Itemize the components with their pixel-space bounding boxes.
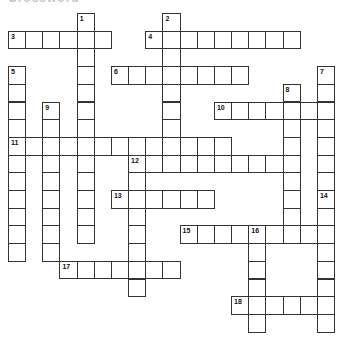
crossword-cell[interactable]	[231, 66, 249, 85]
crossword-cell[interactable]	[197, 190, 215, 209]
crossword-cell[interactable]	[180, 66, 198, 85]
crossword-cell[interactable]: 4	[145, 31, 163, 50]
crossword-cell[interactable]	[145, 66, 163, 85]
crossword-cell[interactable]: 2	[162, 13, 180, 32]
crossword-cell[interactable]	[8, 119, 26, 138]
crossword-cell[interactable]	[8, 190, 26, 209]
crossword-cell[interactable]	[162, 102, 180, 121]
crossword-cell[interactable]	[317, 279, 335, 298]
crossword-cell[interactable]	[317, 155, 335, 174]
crossword-cell[interactable]	[59, 31, 77, 50]
crossword-cell[interactable]	[248, 102, 266, 121]
crossword-cell[interactable]: 7	[317, 66, 335, 85]
crossword-cell[interactable]	[25, 31, 43, 50]
crossword-cell[interactable]	[317, 243, 335, 262]
crossword-cell[interactable]	[197, 66, 215, 85]
crossword-cell[interactable]	[94, 137, 112, 156]
crossword-cell[interactable]	[317, 84, 335, 103]
crossword-cell[interactable]: 10	[214, 102, 232, 121]
crossword-cell[interactable]: 8	[283, 84, 301, 103]
crossword-cell[interactable]	[248, 314, 266, 333]
crossword-cell[interactable]	[248, 261, 266, 280]
crossword-cell[interactable]	[197, 155, 215, 174]
crossword-cell[interactable]	[283, 155, 301, 174]
crossword-cell[interactable]	[180, 31, 198, 50]
crossword-cell[interactable]	[248, 243, 266, 262]
crossword-cell[interactable]	[128, 225, 146, 244]
crossword-cell[interactable]: 11	[8, 137, 26, 156]
crossword-cell[interactable]	[128, 279, 146, 298]
crossword-cell[interactable]	[128, 261, 146, 280]
crossword-cell[interactable]	[231, 102, 249, 121]
crossword-cell[interactable]	[265, 155, 283, 174]
crossword-cell[interactable]	[300, 102, 318, 121]
crossword-cell[interactable]	[42, 137, 60, 156]
crossword-cell[interactable]	[248, 31, 266, 50]
crossword-cell[interactable]	[42, 225, 60, 244]
crossword-cell[interactable]	[317, 172, 335, 191]
crossword-cell[interactable]	[283, 296, 301, 315]
crossword-cell[interactable]	[8, 243, 26, 262]
crossword-cell[interactable]: 12	[128, 155, 146, 174]
crossword-cell[interactable]	[162, 48, 180, 67]
crossword-cell[interactable]	[42, 190, 60, 209]
crossword-cell[interactable]: 16	[248, 225, 266, 244]
crossword-cell[interactable]	[283, 208, 301, 227]
crossword-cell[interactable]	[94, 261, 112, 280]
crossword-cell[interactable]	[317, 261, 335, 280]
crossword-cell[interactable]	[59, 137, 77, 156]
crossword-cell[interactable]: 5	[8, 66, 26, 85]
crossword-cell[interactable]	[77, 172, 95, 191]
crossword-cell[interactable]	[77, 119, 95, 138]
crossword-cell[interactable]	[145, 155, 163, 174]
crossword-cell[interactable]: 14	[317, 190, 335, 209]
crossword-cell[interactable]	[317, 102, 335, 121]
crossword-cell[interactable]	[42, 208, 60, 227]
crossword-cell[interactable]	[180, 137, 198, 156]
crossword-cell[interactable]	[77, 84, 95, 103]
crossword-cell[interactable]	[111, 137, 129, 156]
crossword-cell[interactable]	[162, 155, 180, 174]
crossword-cell[interactable]	[197, 31, 215, 50]
crossword-cell[interactable]	[248, 155, 266, 174]
crossword-cell[interactable]	[162, 84, 180, 103]
crossword-cell[interactable]	[162, 137, 180, 156]
crossword-cell[interactable]	[265, 102, 283, 121]
crossword-cell[interactable]	[214, 137, 232, 156]
crossword-cell[interactable]	[128, 243, 146, 262]
crossword-cell[interactable]	[8, 102, 26, 121]
crossword-cell[interactable]	[145, 190, 163, 209]
crossword-cell[interactable]: 17	[59, 261, 77, 280]
crossword-cell[interactable]	[214, 155, 232, 174]
crossword-cell[interactable]	[317, 119, 335, 138]
crossword-cell[interactable]	[300, 225, 318, 244]
crossword-cell[interactable]	[77, 137, 95, 156]
crossword-cell[interactable]	[180, 190, 198, 209]
crossword-cell[interactable]	[162, 66, 180, 85]
crossword-cell[interactable]	[214, 31, 232, 50]
crossword-cell[interactable]: 15	[180, 225, 198, 244]
crossword-cell[interactable]	[77, 190, 95, 209]
crossword-cell[interactable]	[8, 172, 26, 191]
crossword-cell[interactable]	[77, 66, 95, 85]
crossword-cell[interactable]	[128, 66, 146, 85]
crossword-cell[interactable]	[8, 155, 26, 174]
crossword-cell[interactable]	[111, 261, 129, 280]
crossword-cell[interactable]	[231, 225, 249, 244]
crossword-cell[interactable]	[283, 137, 301, 156]
crossword-cell[interactable]: 9	[42, 102, 60, 121]
crossword-cell[interactable]	[128, 137, 146, 156]
crossword-cell[interactable]	[128, 208, 146, 227]
crossword-cell[interactable]	[77, 31, 95, 50]
crossword-cell[interactable]	[197, 225, 215, 244]
crossword-cell[interactable]	[145, 261, 163, 280]
crossword-cell[interactable]	[77, 102, 95, 121]
crossword-cell[interactable]	[283, 102, 301, 121]
crossword-cell[interactable]	[8, 208, 26, 227]
crossword-cell[interactable]: 1	[77, 13, 95, 32]
crossword-cell[interactable]	[317, 296, 335, 315]
crossword-cell[interactable]	[77, 48, 95, 67]
crossword-cell[interactable]	[162, 31, 180, 50]
crossword-cell[interactable]: 18	[231, 296, 249, 315]
crossword-cell[interactable]	[42, 119, 60, 138]
